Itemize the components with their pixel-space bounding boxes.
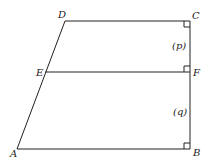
segment-AD (17, 21, 65, 149)
point-label-C: C (192, 10, 200, 21)
trapezoid-diagram: D C E F A B (p) (q) (0, 0, 211, 164)
point-label-D: D (57, 9, 66, 20)
right-angle-marker-F (184, 66, 190, 72)
segment-label-q: (q) (173, 106, 187, 117)
segment-label-p: (p) (172, 40, 186, 51)
point-label-A: A (9, 148, 17, 159)
point-label-B: B (192, 147, 200, 158)
right-angle-marker-C (184, 21, 190, 27)
point-label-E: E (35, 67, 44, 78)
point-label-F: F (192, 67, 201, 78)
right-angle-marker-B (184, 143, 190, 149)
